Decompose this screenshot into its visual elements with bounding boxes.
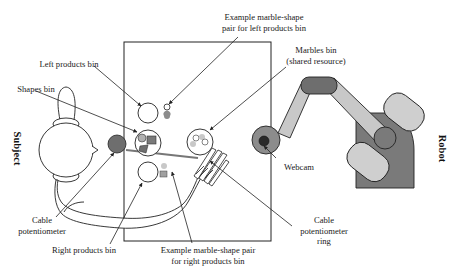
subject-head [39, 123, 93, 177]
label-right-products-bin: Right products bin [46, 245, 122, 256]
marble [193, 135, 199, 141]
label-cable-potentiometer: Cable potentiometer [12, 215, 72, 236]
label-example-left-line2: pair for left products bin [204, 23, 324, 34]
robot-top-joint [301, 77, 337, 94]
leader-shapes-bin [36, 91, 137, 132]
label-marbles-bin-line2: (shared resource) [276, 56, 356, 67]
label-cable-ring-line2: potentiometer [294, 226, 354, 237]
shape-circle [138, 134, 146, 142]
diagram-canvas [0, 0, 467, 279]
label-shapes-bin: Shapes bin [14, 84, 58, 95]
shape-square [147, 136, 156, 144]
cable-potentiometer [108, 135, 126, 153]
robot-label: Robot [437, 135, 448, 162]
label-cable-ring-line1: Cable [294, 215, 354, 226]
left-example-marble [164, 104, 170, 110]
label-cable-pot-line1: Cable [12, 215, 72, 226]
subject-label: Subject [12, 132, 23, 166]
label-marbles-bin: Marbles bin (shared resource) [276, 45, 356, 66]
subject-nose [92, 146, 98, 154]
marble [202, 139, 208, 145]
label-example-left-line1: Example marble-shape [204, 12, 324, 23]
label-cable-pot-line2: potentiometer [12, 226, 72, 237]
label-cable-ring-line3: ring [294, 236, 354, 247]
webcam [259, 136, 269, 146]
label-example-right: Example marble-shape pair for right prod… [148, 245, 268, 266]
label-example-right-line1: Example marble-shape pair [148, 245, 268, 256]
robot-shoulder-joint [374, 127, 396, 149]
label-cable-ring: Cable potentiometer ring [294, 215, 354, 247]
label-left-products-bin: Left products bin [34, 59, 104, 70]
setup-diagram: Example marble-shape pair for left produ… [0, 0, 467, 279]
label-example-left: Example marble-shape pair for left produ… [204, 12, 324, 33]
right-example-marble [161, 163, 167, 169]
right-example-shape [160, 171, 167, 177]
right-products-bin [138, 162, 158, 182]
marble [190, 141, 196, 147]
label-webcam: Webcam [276, 162, 322, 173]
label-marbles-bin-line1: Marbles bin [276, 45, 356, 56]
label-example-right-line2: for right products bin [148, 256, 268, 267]
